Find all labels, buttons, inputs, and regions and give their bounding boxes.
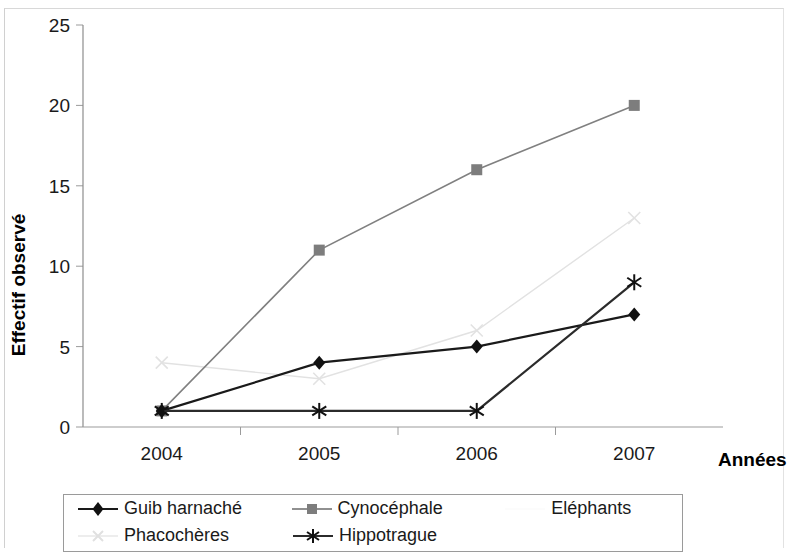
legend-label: Cynocéphale (338, 498, 443, 519)
series-line (162, 105, 635, 411)
legend-item-cynocephale[interactable]: Cynocéphale (290, 498, 504, 519)
data-point-marker (471, 325, 483, 337)
legend-item-elephants[interactable]: Eléphants (503, 498, 682, 519)
data-point-marker (313, 356, 325, 370)
data-point-marker (627, 274, 641, 290)
y-tick-label: 20 (49, 95, 70, 116)
legend-label: Eléphants (551, 498, 631, 519)
legend-row: Phacochères Hippotrague (64, 522, 682, 549)
legend-item-phacocheres[interactable]: Phacochères (76, 525, 291, 546)
y-tick-label: 15 (49, 176, 70, 197)
data-point-marker (471, 340, 483, 354)
legend-label: Guib harnaché (124, 498, 242, 519)
y-axis-title: Effectif observé (8, 214, 29, 357)
legend-item-hippotrague[interactable]: Hippotrague (291, 525, 506, 546)
x-axis-tick-labels: 2004200520062007 (141, 443, 656, 464)
chart-figure: 0510152025 2004200520062007 Effectif obs… (0, 0, 793, 552)
data-point-marker (629, 100, 640, 111)
x-tick-label: 2006 (456, 443, 498, 464)
legend-item-guib-harnache[interactable]: Guib harnaché (76, 498, 290, 519)
y-axis-tick-labels: 0510152025 (49, 15, 70, 438)
legend-row: Guib harnaché Cynocéphale Eléphants (64, 495, 682, 522)
x-axis-title: Années (718, 449, 787, 470)
series-line (162, 314, 635, 410)
y-tick-label: 5 (59, 337, 70, 358)
axis-lines (83, 25, 723, 427)
legend-label: Phacochères (124, 525, 229, 546)
legend-marker-blank (503, 499, 547, 519)
legend-marker-asterisk (291, 526, 335, 546)
y-tick-label: 25 (49, 15, 70, 36)
series-line (162, 282, 635, 411)
data-point-marker (471, 164, 482, 175)
x-tick-label: 2004 (141, 443, 184, 464)
data-point-marker (314, 245, 325, 256)
y-tick-label: 10 (49, 256, 70, 277)
x-tick-label: 2005 (298, 443, 340, 464)
data-series-layer (155, 100, 642, 419)
chart-legend: Guib harnaché Cynocéphale Eléphants (63, 494, 683, 552)
line-chart-plot: 0510152025 2004200520062007 Effectif obs… (0, 0, 793, 552)
series-guib-harnach- (156, 307, 641, 417)
y-tick-label: 0 (59, 417, 70, 438)
x-axis-ticks (241, 427, 556, 435)
data-point-marker (628, 307, 640, 321)
y-axis-ticks (76, 25, 83, 427)
legend-marker-cross (76, 526, 120, 546)
legend-label: Hippotrague (339, 525, 437, 546)
legend-marker-diamond (76, 499, 120, 519)
legend-marker-square (290, 499, 334, 519)
data-point-marker (628, 212, 640, 224)
series-phacoch-res (156, 212, 641, 385)
series-hippotrague (155, 274, 642, 419)
x-tick-label: 2007 (613, 443, 655, 464)
